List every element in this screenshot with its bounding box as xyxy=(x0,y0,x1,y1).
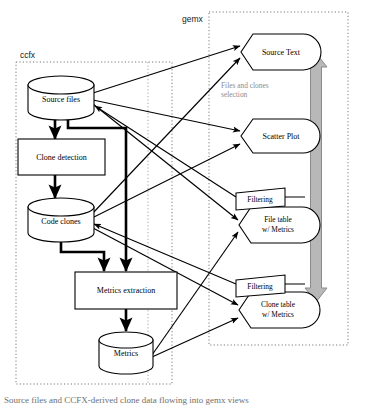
node-clone-detection[interactable]: Clone detection xyxy=(18,139,105,175)
node-label-clone-detection: Clone detection xyxy=(36,153,86,162)
node-label-metrics: Metrics xyxy=(114,349,138,358)
figure-canvas: ccfx gemx xyxy=(0,0,366,405)
node-label-clone-table-line1: Clone table xyxy=(261,300,296,309)
node-label-scatter-plot: Scatter Plot xyxy=(262,132,300,141)
node-metrics[interactable]: Metrics xyxy=(99,332,153,374)
node-label-code-clones: Code clones xyxy=(41,217,80,226)
group-label-ccfx: ccfx xyxy=(20,50,36,60)
node-scatter-plot[interactable]: Scatter Plot xyxy=(241,119,320,153)
node-label-file-table-line1: File table xyxy=(264,215,292,224)
node-code-clones[interactable]: Code clones xyxy=(28,198,94,242)
node-label-source-text: Source Text xyxy=(262,48,301,57)
node-source-files[interactable]: Source files xyxy=(28,76,94,120)
node-clone-table[interactable]: Clone table w/ Metrics xyxy=(239,292,320,328)
cross-links xyxy=(92,46,240,357)
node-source-text[interactable]: Source Text xyxy=(241,34,321,70)
selection-annotation: Files and clones selection xyxy=(221,81,269,99)
architecture-diagram: ccfx gemx xyxy=(0,0,366,405)
node-label-filtering-file: Filtering xyxy=(247,195,273,204)
selection-annotation-line1: Files and clones xyxy=(221,81,269,90)
node-label-file-table-line2: w/ Metrics xyxy=(262,225,294,234)
node-metrics-extraction[interactable]: Metrics extraction xyxy=(75,272,177,309)
node-label-metrics-extraction: Metrics extraction xyxy=(97,286,155,295)
node-file-table[interactable]: File table w/ Metrics xyxy=(239,207,320,243)
node-filtering-file[interactable]: Filtering xyxy=(236,188,285,210)
figure-caption: Source files and CCFX-derived clone data… xyxy=(4,396,362,405)
node-label-source-files: Source files xyxy=(42,95,80,104)
selection-annotation-line2: selection xyxy=(221,90,248,99)
node-filtering-clone[interactable]: Filtering xyxy=(236,275,285,297)
files-and-clones-selection-arrow xyxy=(305,53,327,302)
group-label-gemx: gemx xyxy=(182,14,204,24)
node-label-clone-table-line2: w/ Metrics xyxy=(262,310,294,319)
node-label-filtering-clone: Filtering xyxy=(247,282,273,291)
